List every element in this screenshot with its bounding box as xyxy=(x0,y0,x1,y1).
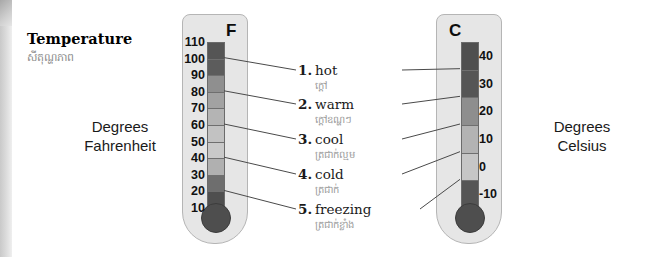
thermometer-band xyxy=(208,43,224,60)
scale-tick-fahrenheit: 40 xyxy=(183,152,205,165)
thermometer-letter-c: C xyxy=(449,21,461,41)
scale-tick-celsius: 30 xyxy=(479,78,503,91)
thermometer-band xyxy=(462,71,478,99)
thermometer-band xyxy=(462,126,478,154)
scale-tick-fahrenheit: 70 xyxy=(183,102,205,115)
thermometer-band xyxy=(462,98,478,126)
heading-block: Temperature សីតុណ្ហភាព xyxy=(27,31,132,66)
thermometer-bulb-celsius xyxy=(455,203,485,233)
left-strip-corner xyxy=(0,0,12,26)
temperature-label-number: 4. xyxy=(298,166,312,182)
page-title: Temperature xyxy=(27,31,132,47)
thermometer-band xyxy=(208,126,224,143)
temperature-label-item: 5.freezingត្រជាក់ខ្លាំង xyxy=(298,201,408,233)
temperature-label-khmer: ត្រជាក់ល្មម xyxy=(315,148,408,163)
scale-tick-fahrenheit: 110 xyxy=(183,36,205,49)
thermometer-tube-fahrenheit xyxy=(207,42,225,208)
scale-tick-fahrenheit: 60 xyxy=(183,119,205,132)
thermometer-band xyxy=(208,143,224,160)
scale-tick-fahrenheit: 10 xyxy=(183,202,205,215)
scale-tick-fahrenheit: 100 xyxy=(183,53,205,66)
thermometer-band xyxy=(462,43,478,71)
thermometer-band xyxy=(208,159,224,176)
temperature-label-text: 5.freezing xyxy=(298,201,408,217)
caption-degrees-fahrenheit: Degrees Fahrenheit xyxy=(57,117,183,155)
scale-tick-celsius: 10 xyxy=(479,133,503,146)
temperature-label-word: cold xyxy=(315,166,344,182)
temperature-label-number: 2. xyxy=(298,96,312,112)
temperature-label-khmer: ក្ដៅឧណ្ហៗ xyxy=(315,113,408,128)
scale-tick-fahrenheit: 90 xyxy=(183,69,205,82)
temperature-label-khmer: ត្រជាក់ xyxy=(315,183,408,198)
temperature-label-word: cool xyxy=(315,131,343,147)
thermometer-band xyxy=(208,76,224,93)
thermometer-band xyxy=(208,176,224,193)
temperature-label-item: 4.coldត្រជាក់ xyxy=(298,166,408,198)
scale-tick-fahrenheit: 80 xyxy=(183,86,205,99)
thermometer-band xyxy=(462,154,478,182)
temperature-label-khmer: ត្រជាក់ខ្លាំង xyxy=(315,218,408,233)
scale-tick-celsius: 20 xyxy=(479,105,503,118)
scale-tick-celsius: 40 xyxy=(479,50,503,63)
scale-tick-fahrenheit: 20 xyxy=(183,185,205,198)
thermometer-tube-celsius xyxy=(461,42,479,208)
caption-degrees-celsius: Degrees Celsius xyxy=(521,117,643,155)
left-gray-strip xyxy=(0,0,12,257)
temperature-label-text: 2.warm xyxy=(298,96,408,112)
thermometer-letter-f: F xyxy=(226,21,236,41)
temperature-label-item: 1.hotក្ដៅ xyxy=(298,62,408,94)
thermometer-band xyxy=(208,93,224,110)
scale-tick-celsius: 0 xyxy=(479,161,503,174)
temperature-label-number: 3. xyxy=(298,131,312,147)
scale-tick-celsius: -10 xyxy=(479,188,503,201)
temperature-label-item: 2.warmក្ដៅឧណ្ហៗ xyxy=(298,96,408,128)
thermometer-band xyxy=(208,109,224,126)
temperature-label-item: 3.coolត្រជាក់ល្មម xyxy=(298,131,408,163)
temperature-label-word: freezing xyxy=(315,201,371,217)
thermometer-bulb-fahrenheit xyxy=(201,203,231,233)
temperature-label-word: hot xyxy=(315,62,337,78)
scale-tick-fahrenheit: 50 xyxy=(183,136,205,149)
temperature-label-text: 4.cold xyxy=(298,166,408,182)
thermometer-celsius: C 403020100-10 xyxy=(436,14,502,244)
scale-tick-fahrenheit: 30 xyxy=(183,169,205,182)
temperature-label-number: 1. xyxy=(298,62,312,78)
temperature-label-word: warm xyxy=(315,96,354,112)
temperature-diagram: Temperature សីតុណ្ហភាព Degrees Fahrenhei… xyxy=(0,0,649,257)
thermometer-fahrenheit: F 110100908070605040302010 xyxy=(182,14,248,244)
temperature-label-number: 5. xyxy=(298,201,312,217)
page-title-khmer: សីតុណ្ហភាព xyxy=(27,50,132,66)
temperature-label-text: 1.hot xyxy=(298,62,408,78)
thermometer-band xyxy=(208,60,224,77)
temperature-label-text: 3.cool xyxy=(298,131,408,147)
temperature-label-khmer: ក្ដៅ xyxy=(315,79,408,94)
